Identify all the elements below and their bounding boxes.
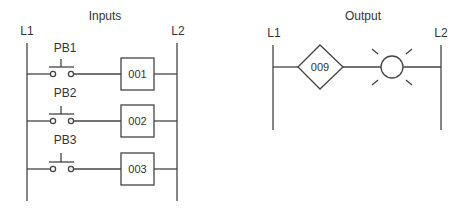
pb1-label: PB1 (54, 41, 77, 55)
lamp-icon (381, 56, 403, 78)
input-address-002: 002 (128, 115, 146, 127)
output-section: Output L1 L2 009 (267, 9, 448, 130)
inputs-l1-label: L1 (20, 24, 34, 38)
pb1-contact-right (68, 71, 73, 76)
input-address-001: 001 (128, 68, 146, 80)
pb1-contact-left (50, 71, 55, 76)
pb3-contact-right (68, 166, 73, 171)
output-address-009: 009 (311, 61, 329, 73)
ladder-diagram: Inputs L1 L2 PB1 001 PB2 0 (0, 0, 471, 214)
output-l2-label: L2 (434, 26, 448, 40)
pb3-label: PB3 (54, 133, 77, 147)
output-l1-label: L1 (267, 26, 281, 40)
pb2-label: PB2 (54, 86, 77, 100)
rung-1: PB1 001 (27, 41, 177, 90)
input-address-003: 003 (128, 163, 146, 175)
inputs-section: Inputs L1 L2 PB1 001 PB2 0 (20, 9, 185, 201)
pb2-contact-left (50, 118, 55, 123)
rung-2: PB2 002 (27, 86, 177, 137)
inputs-l2-label: L2 (171, 24, 185, 38)
pb3-contact-left (50, 166, 55, 171)
output-title: Output (345, 9, 382, 23)
rung-3: PB3 003 (27, 133, 177, 185)
pb2-contact-right (68, 118, 73, 123)
inputs-title: Inputs (89, 9, 122, 23)
